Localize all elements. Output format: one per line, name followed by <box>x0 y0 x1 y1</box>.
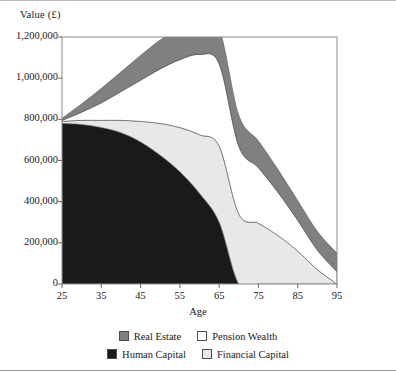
legend-row-bottom: Human Capital Financial Capital <box>0 345 396 363</box>
x-tick-label: 45 <box>124 290 158 301</box>
x-tick-label: 25 <box>45 290 79 301</box>
y-tick-label: 1,200,000 <box>2 30 58 41</box>
x-tick-label: 65 <box>202 290 236 301</box>
legend-item-pension-wealth: Pension Wealth <box>197 331 277 342</box>
legend-item-real-estate: Real Estate <box>119 331 182 342</box>
legend-swatch-icon <box>202 349 212 359</box>
legend-swatch-icon <box>119 331 129 341</box>
y-tick-label: 800,000 <box>2 112 58 123</box>
chart-legend: Real Estate Pension Wealth Human Capital… <box>0 327 396 363</box>
y-tick-label: 1,000,000 <box>2 71 58 82</box>
legend-swatch-icon <box>107 349 117 359</box>
y-tick-label: 600,000 <box>2 154 58 165</box>
legend-row-top: Real Estate Pension Wealth <box>0 327 396 345</box>
legend-swatch-icon <box>197 331 207 341</box>
y-tick-label: 200,000 <box>2 236 58 247</box>
x-tick-label: 35 <box>84 290 118 301</box>
legend-label: Pension Wealth <box>212 331 277 342</box>
legend-label: Real Estate <box>134 331 182 342</box>
x-tick-label: 95 <box>320 290 354 301</box>
y-tick-label: 400,000 <box>2 195 58 206</box>
chart-figure: Value (£) 0200,000400,000600,000800,0001… <box>0 0 396 371</box>
x-tick-label: 85 <box>281 290 315 301</box>
y-tick-label: 0 <box>2 277 58 288</box>
legend-item-financial-capital: Financial Capital <box>202 349 289 360</box>
x-axis-title: Age <box>0 306 396 317</box>
x-tick-label: 55 <box>163 290 197 301</box>
x-tick-label: 75 <box>241 290 275 301</box>
legend-label: Human Capital <box>122 349 186 360</box>
legend-item-human-capital: Human Capital <box>107 349 186 360</box>
legend-label: Financial Capital <box>217 349 289 360</box>
